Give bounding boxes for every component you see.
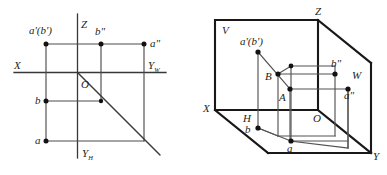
- right-point-B: [275, 71, 280, 76]
- right-label-z-axis: Z: [315, 5, 322, 17]
- right-label-origin: O: [313, 112, 321, 124]
- right-label-B: B: [265, 70, 272, 82]
- box-edge-z-to-back-top: [318, 20, 371, 63]
- inner-receding-ab-prime-to-A: [258, 52, 290, 89]
- right-point-b-double-prime: [332, 71, 337, 76]
- right-projection-box-diagram: V H W Z X Y O a'(b') B A b" a" b a: [0, 0, 387, 175]
- right-label-ab-prime: a'(b'): [240, 35, 263, 48]
- right-point-A: [287, 86, 292, 91]
- inner-receding-bottom-right: [290, 141, 348, 148]
- right-label-b-double-prime: b": [331, 57, 342, 69]
- inner-receding-lower-left: [258, 128, 278, 136]
- right-label-a-double-prime: a": [344, 89, 355, 101]
- right-point-ab-prime: [255, 49, 260, 54]
- right-label-y-axis: Y: [373, 150, 381, 162]
- box-edge-o-to-y: [318, 110, 371, 153]
- box-edge-x-to-front: [215, 110, 268, 153]
- right-label-x-axis: X: [202, 102, 211, 114]
- v-plane-face: [215, 20, 318, 110]
- right-label-A: A: [278, 91, 286, 103]
- right-label-v-plane: V: [222, 24, 230, 36]
- right-label-a: a: [287, 142, 293, 154]
- right-point-b: [255, 125, 260, 130]
- right-label-b: b: [245, 123, 251, 135]
- figure-root: a'(b') b" a" b a Z X O YW YH: [0, 0, 387, 175]
- right-point-upper-aux: [289, 64, 294, 69]
- right-label-w-plane: W: [352, 69, 362, 81]
